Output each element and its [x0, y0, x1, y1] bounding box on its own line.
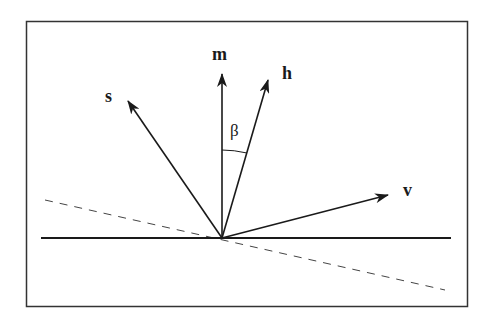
vector-s-label: s — [105, 86, 112, 106]
vector-h-arrow — [222, 80, 268, 238]
angle-beta-label: β — [230, 121, 239, 140]
vector-h-label: h — [282, 63, 292, 83]
vector-m-label: m — [212, 44, 227, 64]
vector-v-label: v — [403, 180, 412, 200]
vector-s-arrow — [128, 101, 222, 238]
tangent-dashed-line — [45, 200, 445, 290]
reflection-vectors-diagram: s m h v β — [0, 0, 497, 325]
diagram-frame — [27, 22, 468, 307]
angle-beta-arc — [222, 150, 247, 153]
vector-v-arrow — [222, 195, 388, 238]
